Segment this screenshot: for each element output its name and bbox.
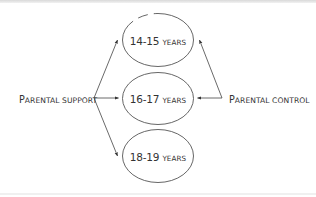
- node-unit: years: [162, 38, 186, 47]
- node-label-16-17: 16-17 years: [130, 93, 187, 105]
- node-range: 18-19: [130, 151, 160, 163]
- diagram-frame: 14-15 years 16-17 years 18-19 years Pare…: [0, 0, 316, 197]
- node-label-14-15: 14-15 years: [130, 35, 187, 47]
- label-rest: arental support: [25, 96, 97, 105]
- node-range: 14-15: [130, 35, 160, 47]
- node-label-18-19: 18-19 years: [130, 151, 187, 163]
- label-parental-support: Parental support: [19, 94, 97, 105]
- arrow-support-to-14-15: [94, 40, 118, 98]
- label-parental-control: Parental control: [229, 94, 310, 105]
- node-range: 16-17: [130, 93, 160, 105]
- arrow-control-to-14-15: [200, 40, 223, 98]
- label-rest: arental control: [235, 96, 310, 105]
- node-unit: years: [162, 96, 186, 105]
- node-unit: years: [162, 154, 186, 163]
- arrow-support-to-18-19: [94, 98, 118, 156]
